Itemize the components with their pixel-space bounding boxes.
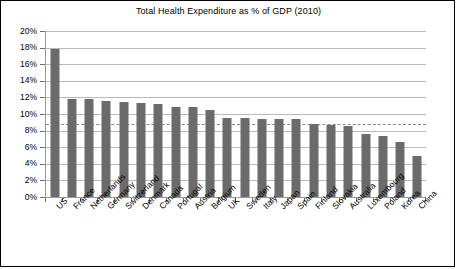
y-axis-tick-label: 12% <box>1 93 37 102</box>
bar-slot <box>63 31 80 197</box>
bar[interactable] <box>309 124 318 197</box>
bar-slot <box>201 31 218 197</box>
bar-slot <box>81 31 98 197</box>
bar-slot <box>253 31 270 197</box>
bar[interactable] <box>240 118 249 197</box>
y-axis-tick-label: 0% <box>1 193 37 202</box>
y-axis-tick-mark <box>40 64 45 65</box>
bar-slot <box>305 31 322 197</box>
bar-slot <box>409 31 426 197</box>
bar[interactable] <box>67 99 76 197</box>
y-axis-tick-label: 16% <box>1 60 37 69</box>
y-axis-tick-label: 10% <box>1 110 37 119</box>
bar-slot <box>288 31 305 197</box>
bar-slot <box>236 31 253 197</box>
bar-slot <box>271 31 288 197</box>
y-axis-tick-mark <box>40 81 45 82</box>
x-axis-tick-mark <box>45 198 46 202</box>
bar-slot <box>322 31 339 197</box>
bar-slot <box>340 31 357 197</box>
y-axis-tick-mark <box>40 164 45 165</box>
bar[interactable] <box>85 99 94 197</box>
bar-slot <box>374 31 391 197</box>
bar-slot <box>219 31 236 197</box>
bar-slot <box>115 31 132 197</box>
plot-area <box>45 31 426 198</box>
y-axis-tick-mark <box>40 31 45 32</box>
bar-slot <box>184 31 201 197</box>
y-axis-tick-label: 18% <box>1 43 37 52</box>
y-axis-tick-mark <box>40 180 45 181</box>
chart-container: Total Health Expenditure as % of GDP (20… <box>0 0 455 267</box>
y-axis-tick-label: 20% <box>1 27 37 36</box>
bar-slot <box>357 31 374 197</box>
bar-slot <box>150 31 167 197</box>
bar[interactable] <box>206 110 215 197</box>
bar-slot <box>98 31 115 197</box>
bar-series <box>46 31 426 197</box>
y-axis-tick-label: 8% <box>1 126 37 135</box>
chart-title: Total Health Expenditure as % of GDP (20… <box>1 6 456 16</box>
bar-slot <box>132 31 149 197</box>
y-axis-tick-mark <box>40 97 45 98</box>
y-axis-tick-label: 6% <box>1 143 37 152</box>
y-axis-tick-label: 2% <box>1 176 37 185</box>
y-axis-tick-label: 14% <box>1 76 37 85</box>
bar-slot <box>167 31 184 197</box>
bar[interactable] <box>50 49 59 197</box>
y-axis-tick-mark <box>40 48 45 49</box>
y-axis-tick-mark <box>40 147 45 148</box>
y-axis-tick-mark <box>40 114 45 115</box>
y-axis-tick-label: 4% <box>1 159 37 168</box>
bar[interactable] <box>292 119 301 197</box>
y-axis-tick-mark <box>40 131 45 132</box>
bar[interactable] <box>275 119 284 197</box>
bar-slot <box>46 31 63 197</box>
